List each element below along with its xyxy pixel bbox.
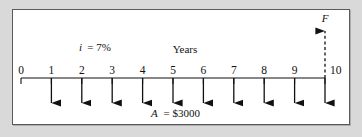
tick-label-6: 6 [201, 64, 207, 76]
annuity-symbol: A [150, 107, 158, 119]
tick-label-9: 9 [292, 64, 298, 76]
tick-label-8: 8 [261, 64, 267, 76]
tick-label-0: 0 [18, 64, 24, 76]
interest-rate-value: = 7% [87, 41, 111, 53]
interest-rate-label: i = 7% [79, 41, 111, 53]
annuity-amount-label: A = $3000 [150, 107, 200, 119]
tick-label-5: 5 [170, 64, 176, 76]
cash-flow-diagram-figure: 0 1 2 3 4 5 6 7 8 9 10 Years i = 7% A = … [0, 0, 362, 137]
tick-label-7: 7 [231, 64, 237, 76]
tick-label-10: 10 [330, 64, 342, 76]
interest-rate-symbol: i [79, 41, 82, 53]
tick-label-3: 3 [109, 64, 115, 76]
cash-flow-timeline-canvas: 0 1 2 3 4 5 6 7 8 9 10 Years i = 7% A = … [0, 0, 362, 137]
years-axis-label: Years [173, 43, 198, 55]
tick-label-4: 4 [140, 64, 146, 76]
tick-label-1: 1 [49, 64, 55, 76]
tick-label-2: 2 [79, 64, 85, 76]
future-value-label: F [321, 12, 329, 24]
annuity-value: = $3000 [163, 107, 200, 119]
